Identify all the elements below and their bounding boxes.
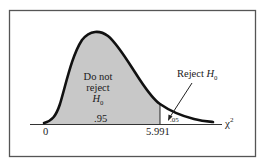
x-axis-label: χ2	[225, 117, 233, 129]
acceptance-label-line2: reject	[72, 82, 124, 93]
acceptance-label-line1: Do not	[72, 71, 124, 82]
h-subscript: 0	[214, 74, 217, 81]
h-symbol: H	[206, 68, 214, 79]
chi-square-figure	[0, 0, 265, 165]
tick-label-zero: 0	[43, 127, 48, 138]
acceptance-hypothesis: H0	[72, 93, 124, 108]
h-subscript: 0	[100, 99, 103, 106]
rejection-area: .05	[170, 117, 179, 124]
h-symbol: H	[93, 93, 101, 104]
chi-superscript: 2	[230, 116, 234, 124]
rejection-label: Reject H0	[177, 69, 217, 82]
acceptance-label: Do not reject H0	[72, 71, 124, 108]
acceptance-area: .95	[94, 114, 107, 125]
rejection-text: Reject	[177, 68, 206, 79]
tick-label-critical: 5.991	[146, 127, 170, 138]
